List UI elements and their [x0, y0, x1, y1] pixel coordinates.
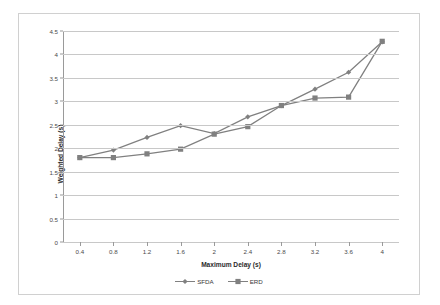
data-point-erd — [111, 155, 116, 160]
gridline — [63, 148, 399, 149]
data-point-sfda — [144, 135, 149, 140]
gridline — [63, 195, 399, 196]
legend-label: SFDA — [197, 278, 214, 285]
x-tick-label: 1.6 — [176, 248, 185, 255]
y-tick-mark — [60, 242, 63, 243]
gridline — [63, 172, 399, 173]
diamond-marker-icon — [175, 278, 195, 285]
x-tick-mark — [113, 242, 114, 246]
series-line-sfda — [80, 42, 382, 158]
x-tick-label: 3.2 — [311, 248, 320, 255]
y-tick-mark — [60, 54, 63, 55]
x-tick-mark — [80, 242, 81, 246]
y-tick-label: 0 — [55, 239, 58, 246]
data-point-sfda — [245, 114, 250, 119]
y-tick-label: 2.5 — [49, 121, 58, 128]
y-tick-mark — [60, 77, 63, 78]
x-tick-mark — [147, 242, 148, 246]
series-plot — [63, 31, 399, 242]
gridline — [63, 31, 399, 32]
data-point-erd — [380, 39, 385, 44]
x-tick-mark — [382, 242, 383, 246]
legend-item-sfda[interactable]: SFDA — [175, 278, 214, 285]
y-tick-label: 1 — [55, 192, 58, 199]
y-tick-mark — [60, 31, 63, 32]
x-tick-mark — [181, 242, 182, 246]
x-tick-label: 0.8 — [109, 248, 118, 255]
x-tick-label: 2.4 — [243, 248, 252, 255]
legend-item-erd[interactable]: ERD — [228, 278, 263, 285]
x-tick-mark — [248, 242, 249, 246]
y-axis-line — [63, 31, 64, 242]
x-tick-label: 2.8 — [277, 248, 286, 255]
gridline — [63, 219, 399, 220]
x-tick-label: 4 — [380, 248, 383, 255]
gridline — [63, 125, 399, 126]
y-tick-label: 1.5 — [49, 168, 58, 175]
gridline — [63, 54, 399, 55]
x-axis-title: Maximum Delay (s) — [63, 261, 399, 268]
data-point-erd — [77, 155, 82, 160]
y-tick-mark — [60, 124, 63, 125]
y-tick-label: 3.5 — [49, 74, 58, 81]
y-tick-mark — [60, 171, 63, 172]
x-tick-mark — [281, 242, 282, 246]
y-tick-mark — [60, 148, 63, 149]
y-tick-mark — [60, 195, 63, 196]
x-tick-label: 3.6 — [344, 248, 353, 255]
data-point-sfda — [312, 87, 317, 92]
x-tick-label: 0.4 — [75, 248, 84, 255]
chart-container: Weighted Delay (s) 00.511.522.533.544.5 … — [18, 13, 420, 295]
square-marker-icon — [228, 278, 248, 285]
data-point-erd — [212, 132, 217, 137]
y-tick-label: 4.5 — [49, 28, 58, 35]
series-line-erd — [80, 41, 382, 157]
y-tick-mark — [60, 218, 63, 219]
data-point-erd — [144, 151, 149, 156]
legend-label: ERD — [250, 278, 263, 285]
data-point-erd — [312, 95, 317, 100]
plot-area: 00.511.522.533.544.5 0.40.81.21.622.42.8… — [63, 31, 399, 242]
y-tick-label: 2 — [55, 145, 58, 152]
x-tick-label: 2 — [212, 248, 215, 255]
gridline — [63, 101, 399, 102]
x-tick-label: 1.2 — [143, 248, 152, 255]
y-tick-mark — [60, 101, 63, 102]
x-tick-mark — [315, 242, 316, 246]
x-tick-mark — [349, 242, 350, 246]
chart-legend: SFDAERD — [19, 278, 419, 285]
y-tick-label: 3 — [55, 98, 58, 105]
x-tick-mark — [214, 242, 215, 246]
y-tick-label: 4 — [55, 51, 58, 58]
gridline — [63, 78, 399, 79]
y-tick-label: 0.5 — [49, 215, 58, 222]
data-point-erd — [279, 103, 284, 108]
data-point-erd — [346, 95, 351, 100]
